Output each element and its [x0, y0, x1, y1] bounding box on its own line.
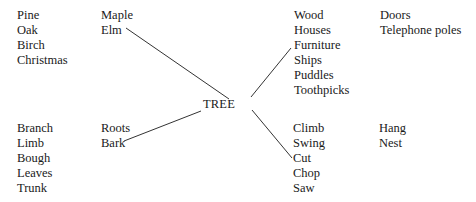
center-node-tree: TREE — [203, 97, 235, 112]
list-item: Branch — [17, 121, 53, 136]
list-item: Roots — [101, 121, 130, 136]
connector-elm-to-tree — [126, 28, 229, 99]
list-item: Leaves — [17, 166, 53, 181]
list-item: Bark — [101, 136, 130, 151]
list-tree-kinds-general: Pine Oak Birch Christmas — [17, 8, 68, 68]
list-item: Doors — [380, 8, 461, 23]
list-item: Wood — [294, 8, 349, 23]
list-item: Telephone poles — [380, 23, 461, 38]
list-item: Chop — [293, 166, 325, 181]
list-item: Nest — [379, 136, 406, 151]
list-item: Ships — [294, 53, 349, 68]
list-item: Trunk — [17, 181, 53, 196]
list-item: Climb — [293, 121, 325, 136]
list-item: Saw — [293, 181, 325, 196]
list-tree-uses-extra: Doors Telephone poles — [380, 8, 461, 38]
list-item: Cut — [293, 151, 325, 166]
list-item: Limb — [17, 136, 53, 151]
list-item: Pine — [17, 8, 68, 23]
list-item: Swing — [293, 136, 325, 151]
connector-tree-to-cut — [252, 110, 292, 158]
list-tree-kinds-linked: Maple Elm — [101, 8, 133, 38]
connector-tree-to-furniture — [251, 48, 291, 97]
list-tree-parts-general: Branch Limb Bough Leaves Trunk — [17, 121, 53, 196]
list-tree-uses-linked: Wood Houses Furniture Ships Puddles Toot… — [294, 8, 349, 98]
list-item: Oak — [17, 23, 68, 38]
list-item: Houses — [294, 23, 349, 38]
list-tree-parts-linked: Roots Bark — [101, 121, 130, 151]
list-item: Elm — [101, 23, 133, 38]
list-tree-actions-linked: Climb Swing Cut Chop Saw — [293, 121, 325, 196]
list-item: Hang — [379, 121, 406, 136]
list-item: Birch — [17, 38, 68, 53]
list-tree-actions-extra: Hang Nest — [379, 121, 406, 151]
list-item: Furniture — [294, 38, 349, 53]
list-item: Christmas — [17, 53, 68, 68]
list-item: Toothpicks — [294, 83, 349, 98]
list-item: Puddles — [294, 68, 349, 83]
connector-tree-to-bark — [124, 111, 201, 141]
list-item: Bough — [17, 151, 53, 166]
list-item: Maple — [101, 8, 133, 23]
